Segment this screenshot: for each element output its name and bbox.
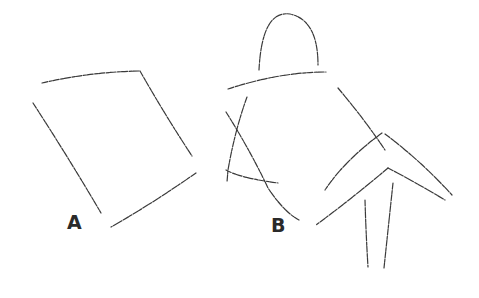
- sketch-b-figure: [226, 14, 452, 268]
- label-b: B: [271, 216, 285, 235]
- sketch-a-box: [33, 71, 196, 227]
- label-a: A: [67, 213, 82, 232]
- sketch-canvas: [0, 0, 479, 298]
